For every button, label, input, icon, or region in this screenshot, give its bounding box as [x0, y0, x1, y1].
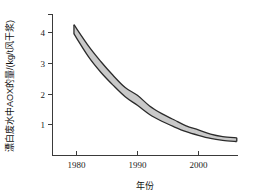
- data-band-group: [74, 25, 237, 142]
- data-band-upper-edge: [74, 25, 237, 138]
- y-axis-title: 漂白废水中AOX的量/(kg/t风干浆): [4, 20, 15, 152]
- data-band-lower-edge: [74, 34, 237, 142]
- y-tick-label: 3: [41, 59, 46, 69]
- chart-container: 1234 198019902000 漂白废水中AOX的量/(kg/t风干浆) 年…: [0, 0, 260, 194]
- y-tick-label: 1: [41, 120, 46, 130]
- x-tick-label: 2000: [190, 160, 209, 170]
- x-axis-title: 年份: [136, 180, 154, 191]
- x-tick-label: 1980: [68, 160, 87, 170]
- x-tick-label: 1990: [129, 160, 148, 170]
- x-axis-ticks: 198019902000: [68, 151, 209, 170]
- y-axis-ticks: 1234: [41, 15, 53, 130]
- y-tick-label: 2: [41, 90, 46, 100]
- data-band-area: [74, 25, 237, 142]
- aox-decline-band-chart: 1234 198019902000 漂白废水中AOX的量/(kg/t风干浆) 年…: [0, 0, 260, 194]
- y-tick-label: 4: [41, 28, 46, 38]
